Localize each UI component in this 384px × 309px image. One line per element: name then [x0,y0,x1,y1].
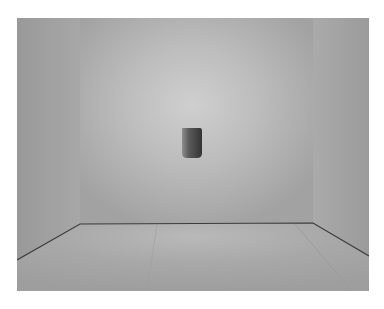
gallery-room-scene [17,18,369,291]
back-wall [80,18,313,224]
gallery-photo [17,18,369,291]
floor [17,223,369,291]
left-wall [17,18,80,260]
right-wall [313,18,369,256]
wall-niche [182,128,202,158]
